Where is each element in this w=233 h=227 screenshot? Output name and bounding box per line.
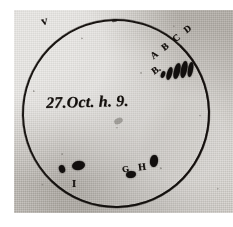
sunspot-drawing-page: v 27.Oct. h. 9. A B C D B. I G H	[0, 0, 233, 227]
spot-label-i: I	[72, 179, 76, 189]
observation-date-text: 27.Oct. h. 9.	[46, 93, 129, 111]
spot-label-g: G	[121, 164, 129, 174]
scanned-paper-surface: v 27.Oct. h. 9. A B C D B. I G H	[14, 10, 233, 213]
solar-disk-circle	[20, 17, 212, 210]
spot-label-h: H	[137, 162, 146, 173]
stray-ink-mark: v	[39, 12, 49, 29]
